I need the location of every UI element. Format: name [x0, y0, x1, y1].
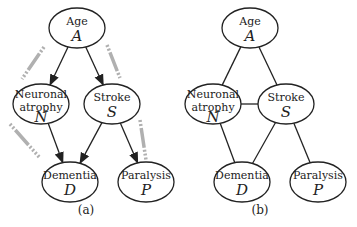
node-variable: N: [33, 108, 48, 126]
diagram-caption: (b): [251, 203, 268, 217]
node-age[interactable]: AgeA: [49, 8, 105, 48]
node-variable: S: [281, 103, 291, 121]
node-dementia[interactable]: DementiaD: [42, 162, 98, 202]
edge-S-D: [252, 123, 275, 164]
node-neuronal[interactable]: NeuronalatrophyN: [185, 84, 241, 126]
edge-A-N: [50, 47, 68, 85]
gray-dash-mark: [22, 47, 44, 79]
node-variable: P: [312, 181, 324, 199]
diagram-caption: (a): [78, 203, 95, 217]
node-variable: A: [243, 27, 256, 45]
bayesian-network-figure: AgeANeuronalatrophyNStrokeSDementiaDPara…: [0, 0, 357, 227]
diagram-b: AgeANeuronalatrophyNStrokeSDementiaDPara…: [185, 8, 346, 217]
edge-S-P: [120, 123, 137, 163]
node-variable: D: [235, 181, 248, 199]
edge-N-D: [220, 123, 235, 162]
node-neuronal[interactable]: NeuronalatrophyN: [13, 84, 69, 126]
node-dementia[interactable]: DementiaD: [214, 162, 270, 202]
gray-dash-mark: [10, 124, 40, 158]
node-variable: S: [107, 103, 117, 121]
edge-A-S: [259, 47, 277, 85]
node-stroke[interactable]: StrokeS: [258, 84, 314, 124]
node-variable: D: [63, 181, 76, 199]
gray-dash-mark: [140, 120, 146, 160]
node-label: Neuronal: [187, 88, 240, 101]
gray-dash-mark: [107, 45, 120, 78]
edge-A-N: [222, 47, 241, 85]
node-variable: P: [140, 181, 152, 199]
diagram-a: AgeANeuronalatrophyNStrokeSDementiaDPara…: [13, 8, 174, 217]
edge-S-D: [80, 123, 102, 164]
node-label: Neuronal: [15, 88, 68, 101]
node-paralysis[interactable]: ParalysisP: [290, 162, 346, 202]
node-paralysis[interactable]: ParalysisP: [118, 162, 174, 202]
edge-A-S: [86, 47, 104, 85]
node-age[interactable]: AgeA: [222, 8, 278, 48]
node-variable: N: [205, 108, 220, 126]
node-stroke[interactable]: StrokeS: [84, 84, 140, 124]
node-variable: A: [70, 27, 83, 45]
edge-S-P: [294, 123, 310, 163]
edge-N-D: [48, 123, 63, 162]
